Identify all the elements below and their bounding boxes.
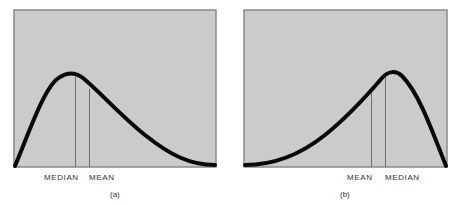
panel-a	[14, 10, 216, 167]
panel-a-plot-area	[14, 10, 216, 167]
panel-b-mean-label: MEAN	[347, 173, 373, 182]
panel-a-mean-label: MEAN	[89, 173, 115, 182]
panel-b	[244, 10, 447, 167]
panel-b-caption: (b)	[340, 190, 350, 199]
panel-b-plot-area	[244, 10, 447, 167]
panel-b-median-label: MEDIAN	[385, 173, 420, 182]
panel-a-median-label: MEDIAN	[44, 173, 79, 182]
panel-a-caption: (a)	[110, 190, 120, 199]
